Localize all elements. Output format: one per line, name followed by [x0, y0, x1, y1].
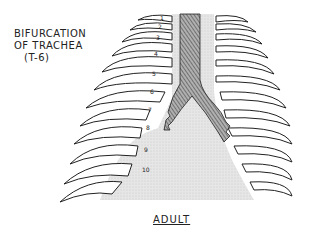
rib-number-9: 9	[144, 146, 148, 153]
ribcage-illustration: 1 2 3 4 5 6 7 8 9 10	[0, 0, 309, 232]
caption-adult: ADULT	[153, 214, 190, 226]
rib-number-1: 1	[160, 14, 164, 21]
rib-number-7: 7	[148, 106, 152, 113]
rib-number-8: 8	[146, 124, 150, 131]
rib-number-2: 2	[158, 23, 162, 30]
trachea-diagram: BIFURCATION OF TRACHEA (T-6)	[0, 0, 309, 232]
rib-number-6: 6	[150, 88, 154, 95]
rib-number-4: 4	[154, 50, 158, 57]
rib-number-10: 10	[142, 166, 150, 173]
rib-number-3: 3	[156, 34, 160, 41]
rib-number-5: 5	[152, 70, 156, 77]
